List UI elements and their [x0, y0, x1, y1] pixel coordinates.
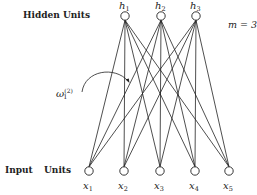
input-node-x1 [85, 167, 93, 175]
hidden-label-h1: h1 [119, 1, 130, 13]
input-node-x5 [225, 167, 233, 175]
edge-h1-x5 [125, 20, 229, 167]
hidden-node-h1 [121, 12, 129, 20]
label-subscript: 5 [229, 185, 233, 193]
weight-sub: 1 [63, 93, 67, 101]
hidden-node-h2 [157, 12, 165, 20]
label-subscript: 1 [89, 185, 93, 193]
input-label-x2: x2 [118, 181, 128, 193]
input-node-x2 [120, 167, 128, 175]
hidden-node-h3 [192, 12, 200, 20]
label-subscript: 2 [161, 5, 165, 13]
input-node-x4 [191, 167, 199, 175]
input-label-x3: x3 [154, 181, 164, 193]
units-label: Units [44, 166, 71, 175]
hidden-units-label: Hidden Units [23, 11, 90, 20]
weight-label: ω1(2) [56, 88, 73, 101]
input-label-x4: x4 [189, 181, 199, 193]
edge-h3-x3 [160, 20, 196, 167]
edge-h3-x1 [89, 20, 196, 167]
edge-h3-x5 [196, 20, 229, 167]
label-subscript: 2 [124, 185, 128, 193]
input-label-x5: x5 [223, 181, 233, 193]
network-diagram [0, 0, 257, 195]
input-label: Input [5, 166, 33, 175]
hidden-label-h3: h3 [190, 1, 201, 13]
input-node-x3 [156, 167, 164, 175]
input-label-x1: x1 [83, 181, 93, 193]
m-equation-label: m = 3 [228, 20, 257, 30]
edge-h1-x1 [89, 20, 125, 167]
label-subscript: 3 [196, 5, 200, 13]
weight-sup: (2) [64, 87, 73, 94]
label-subscript: 1 [125, 5, 129, 13]
hidden-label-h2: h2 [155, 1, 166, 13]
edge-h3-x4 [195, 20, 196, 167]
label-subscript: 3 [160, 185, 164, 193]
weight-arrow-curve [82, 72, 128, 92]
label-subscript: 4 [195, 185, 199, 193]
connection-edges [89, 20, 229, 167]
